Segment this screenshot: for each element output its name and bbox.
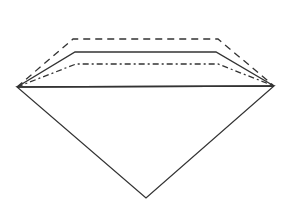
crown-outline-solid (17, 52, 274, 87)
gem-diagram (0, 0, 288, 219)
girdle-line (17, 86, 274, 87)
pavilion-triangle (17, 86, 274, 198)
crown-outline-dash-dot (17, 64, 274, 87)
